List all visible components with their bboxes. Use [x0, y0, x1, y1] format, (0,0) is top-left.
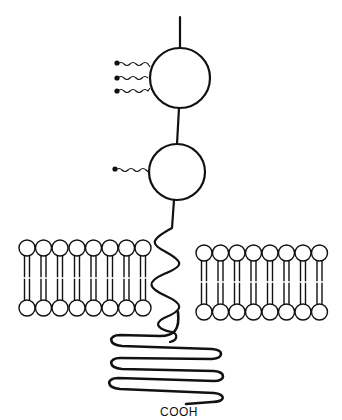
- oligosaccharide-chains-domain-1: [118, 63, 150, 93]
- interdomain-linker: [177, 108, 179, 144]
- protein-diagram: [0, 0, 342, 420]
- globular-domain-1: [150, 48, 210, 108]
- cytoplasmic-tail: [109, 312, 223, 404]
- oligosaccharide-chain-domain-2: [116, 169, 150, 173]
- transmembrane-segment: [151, 200, 179, 342]
- sugar-dot-domain-2: [112, 166, 117, 171]
- sugar-dots-domain-1: [114, 60, 119, 93]
- c-terminus-label: COOH: [160, 405, 198, 419]
- globular-domain-2: [149, 144, 205, 200]
